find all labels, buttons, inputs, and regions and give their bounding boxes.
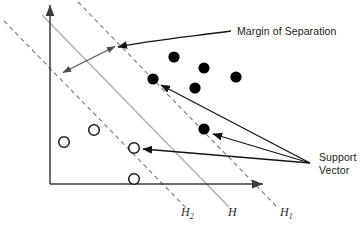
- callout-margin: [118, 31, 231, 47]
- data-point-open-support-vector: [129, 143, 140, 154]
- line-label-h1: H1: [280, 205, 293, 221]
- data-point-filled: [198, 62, 209, 73]
- line-label-h-text: H: [228, 205, 237, 219]
- line-label-h1-text: H: [280, 205, 289, 219]
- data-point-filled: [189, 82, 200, 93]
- line-label-h2-sub: 2: [190, 212, 194, 221]
- margin-of-separation-label: Margin of Separation: [237, 25, 336, 37]
- svm-margin-diagram: Margin of Separation Support Vector H2 H…: [0, 0, 362, 231]
- data-points-filled: [147, 51, 241, 134]
- margin-double-arrow: [63, 47, 115, 73]
- data-point-filled: [230, 71, 241, 82]
- data-point-open: [129, 174, 140, 185]
- data-point-filled-support-vector: [198, 123, 209, 134]
- line-label-h2-text: H: [181, 205, 190, 219]
- line-label-h1-sub: 1: [289, 212, 293, 221]
- line-h2: [4, 21, 186, 208]
- data-point-open: [59, 137, 70, 148]
- support-vector-label-line1: Support: [319, 151, 356, 163]
- line-label-h: H: [228, 205, 237, 221]
- line-label-h2: H2: [181, 205, 194, 221]
- sv-leader-1: [161, 85, 310, 163]
- callout-support-vectors: [143, 85, 310, 163]
- data-point-filled: [168, 51, 179, 62]
- data-points-open: [59, 125, 140, 185]
- data-point-open: [89, 125, 100, 136]
- support-vector-label-line2: Vector: [319, 164, 349, 176]
- data-point-filled-support-vector: [147, 73, 158, 84]
- axes: [50, 5, 263, 184]
- boundary-lines: [4, 2, 276, 208]
